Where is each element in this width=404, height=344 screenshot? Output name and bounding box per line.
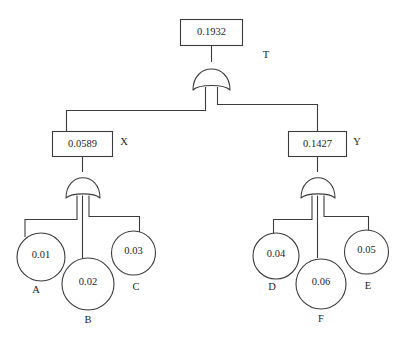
x-node-label: X	[120, 136, 128, 147]
top-node-label: T	[263, 49, 270, 60]
gate-left-or	[66, 178, 100, 198]
wire-rightgate-to-E	[324, 196, 369, 232]
node-A: 0.01 A	[17, 233, 65, 295]
wire-leftgate-to-C	[89, 196, 140, 233]
wire-rightgate-to-D	[274, 196, 313, 234]
node-F: 0.06 F	[296, 259, 346, 324]
d-node-value: 0.04	[267, 248, 286, 259]
a-node-label: A	[32, 284, 40, 295]
node-C: 0.03 C	[112, 231, 156, 292]
e-node-value: 0.05	[357, 244, 375, 255]
wire-leftgate-to-A	[25, 196, 77, 238]
top-node-value: 0.1932	[197, 26, 226, 37]
fault-tree-svg: 0.1932 T 0.0589 X 0.01	[0, 0, 404, 344]
b-node-label: B	[84, 314, 91, 325]
node-D: 0.04 D	[253, 233, 299, 292]
y-node-value: 0.1427	[303, 138, 332, 149]
a-node-value: 0.01	[32, 249, 50, 260]
or-gate-icon	[66, 178, 100, 198]
fault-tree-diagram: 0.1932 T 0.0589 X 0.01	[0, 0, 404, 344]
or-gate-icon	[301, 178, 335, 198]
node-top-T: 0.1932 T	[181, 20, 270, 61]
gate-right-or	[301, 178, 335, 198]
gate-top-or	[193, 69, 230, 90]
e-node-label: E	[365, 280, 371, 291]
y-node-label: Y	[353, 136, 361, 147]
x-node-value: 0.0589	[68, 138, 97, 149]
node-B: 0.02 B	[62, 258, 114, 325]
node-X: 0.0589 X	[53, 132, 129, 157]
or-gate-icon	[193, 69, 230, 90]
b-node-value: 0.02	[79, 276, 97, 287]
f-node-value: 0.06	[312, 276, 330, 287]
node-Y: 0.1427 Y	[289, 132, 362, 157]
wire-topgate-to-X	[67, 87, 206, 131]
c-node-label: C	[132, 281, 139, 292]
node-E: 0.05 E	[345, 230, 389, 291]
f-node-label: F	[318, 313, 324, 324]
c-node-value: 0.03	[124, 245, 142, 256]
d-node-label: D	[268, 281, 276, 292]
wire-topgate-to-Y	[218, 87, 318, 131]
